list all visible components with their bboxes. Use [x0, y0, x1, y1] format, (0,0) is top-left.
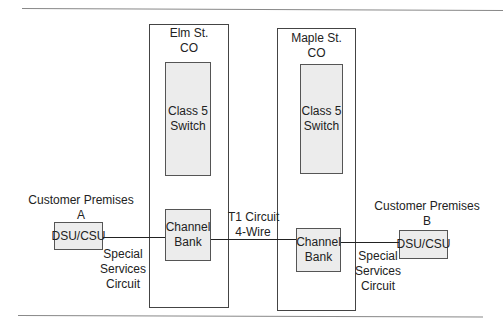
dsu-csu-a: DSU/CSU	[54, 222, 103, 250]
elm-class5-switch: Class 5Switch	[165, 62, 211, 176]
special-services-circuit-left: Special Services Circuit	[100, 247, 146, 292]
maple-class5-switch: Class 5Switch	[300, 64, 343, 174]
top-rule	[22, 8, 503, 11]
elm-st-co-label: Elm St. CO	[149, 26, 229, 56]
dsu-csu-b: DSU/CSU	[399, 230, 448, 259]
customer-premises-b-label: Customer Premises B	[372, 199, 482, 229]
maple-st-co-label: Maple St. CO	[277, 31, 356, 61]
link-maple-to-b	[341, 242, 399, 243]
special-services-circuit-right: Special Services Circuit	[355, 249, 401, 294]
customer-premises-a-label: Customer Premises A	[26, 193, 136, 223]
bottom-rule	[18, 315, 483, 318]
elm-channel-bank: ChannelBank	[165, 209, 211, 261]
t1-circuit-label: T1 Circuit 4-Wire	[228, 210, 278, 240]
link-a-to-elm	[103, 237, 165, 238]
link-elm-to-maple	[211, 239, 296, 240]
maple-channel-bank: ChannelBank	[296, 228, 341, 272]
